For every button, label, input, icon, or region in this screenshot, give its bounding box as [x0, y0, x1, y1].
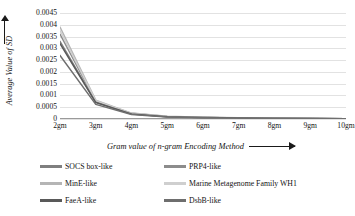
plot-area	[60, 13, 346, 119]
legend-label: FaeA-like	[65, 196, 96, 205]
y-tick-label: 0.0015	[36, 80, 57, 88]
legend-label: DsbB-like	[189, 196, 221, 205]
series-line	[60, 55, 346, 118]
y-tick-label: 0.0025	[36, 56, 57, 64]
series-line	[60, 44, 346, 119]
legend-swatch-icon	[40, 182, 62, 184]
x-axis-title: Gram value of n-gram Encoding Method	[107, 142, 244, 151]
gridline	[60, 119, 346, 120]
x-tick-label: 8gm	[268, 121, 282, 131]
x-tick-label: 5gm	[160, 121, 174, 131]
legend-item[interactable]: MinE-like	[40, 175, 164, 192]
legend-swatch-icon	[164, 199, 186, 201]
legend-label: PRP4-like	[189, 162, 221, 171]
x-tick-label: 6gm	[196, 121, 210, 131]
legend-item[interactable]: SOCS box-like	[40, 158, 164, 175]
y-tick-label: 0.001	[40, 91, 57, 99]
legend-swatch-icon	[164, 165, 186, 167]
y-tick-label: 0.0035	[36, 33, 57, 41]
legend-item[interactable]: PRP4-like	[164, 158, 346, 175]
x-tick-label: 3gm	[89, 121, 103, 131]
x-tick-label: 7gm	[232, 121, 246, 131]
y-axis-title: Average Value of SD	[5, 19, 14, 123]
y-tick-label: 0.004	[40, 21, 57, 29]
legend-swatch-icon	[164, 182, 186, 184]
legend-label: SOCS box-like	[65, 162, 112, 171]
y-axis-title-group: Average Value of SD	[0, 16, 15, 136]
legend-item[interactable]: Marine Metagenome Family WH1	[164, 175, 346, 192]
legend-item[interactable]: DsbB-like	[164, 192, 346, 209]
legend-item[interactable]: FaeA-like	[40, 192, 164, 209]
y-tick-label: 0.003	[40, 44, 57, 52]
chart-legend: SOCS box-likePRP4-likeMinE-likeMarine Me…	[40, 158, 346, 214]
y-tick-label: 0.0005	[36, 103, 57, 111]
legend-label: Marine Metagenome Family WH1	[189, 179, 297, 188]
legend-label: MinE-like	[65, 179, 97, 188]
series-lines	[60, 13, 346, 119]
legend-swatch-icon	[40, 199, 62, 201]
x-axis-tick-labels: 2gm3gm4gm5gm6gm7gm8gm9gm10gm	[60, 121, 346, 133]
y-axis-tick-labels: 00.00050.0010.00150.0020.00250.0030.0035…	[17, 9, 57, 122]
y-tick-label: 0.002	[40, 68, 57, 76]
x-axis-arrow-icon	[249, 146, 295, 147]
x-axis-title-group: Gram value of n-gram Encoding Method	[56, 138, 346, 154]
x-tick-label: 9gm	[303, 121, 317, 131]
x-tick-label: 10gm	[337, 121, 354, 131]
legend-swatch-icon	[40, 165, 62, 167]
x-tick-label: 2gm	[53, 121, 67, 131]
y-tick-label: 0.0045	[36, 9, 57, 17]
x-tick-label: 4gm	[125, 121, 139, 131]
